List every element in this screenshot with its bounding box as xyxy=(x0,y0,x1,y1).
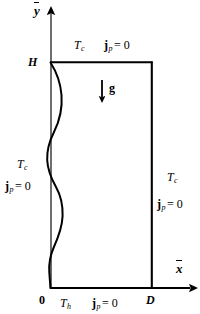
bottom-flux-label: jp= 0 xyxy=(92,294,118,311)
diagram-canvas xyxy=(0,0,200,314)
y-axis-label-text: y xyxy=(34,4,40,17)
bottom-temperature-label: Th xyxy=(60,294,71,311)
right-temperature-label: Tc xyxy=(167,168,178,185)
bottom-temperature-symbol: T xyxy=(60,296,67,310)
right-flux-label: jp= 0 xyxy=(157,195,183,212)
top-temperature-symbol: T xyxy=(74,38,81,52)
point-label-d: D xyxy=(146,294,155,306)
x-axis-label-text: x xyxy=(176,262,183,275)
top-temperature-label: Tc xyxy=(74,36,85,53)
wavy-left-boundary xyxy=(47,63,62,289)
gravity-label: g xyxy=(109,82,115,94)
right-flux-value: = 0 xyxy=(165,197,182,211)
x-axis-label: x xyxy=(176,262,183,275)
left-temperature-symbol: T xyxy=(17,157,24,171)
bottom-flux-value: = 0 xyxy=(100,296,117,310)
top-temperature-subscript: c xyxy=(81,44,85,53)
point-label-h: H xyxy=(28,56,37,68)
left-flux-value: = 0 xyxy=(13,179,30,193)
bottom-temperature-subscript: h xyxy=(67,302,71,311)
top-flux-value: = 0 xyxy=(112,38,129,52)
right-temperature-subscript: c xyxy=(174,176,178,185)
y-axis-label: y xyxy=(34,4,40,17)
point-label-origin: 0 xyxy=(39,294,45,306)
left-temperature-label: Tc xyxy=(17,155,28,172)
left-flux-label: jp= 0 xyxy=(5,177,31,194)
left-temperature-subscript: c xyxy=(24,163,28,172)
right-temperature-symbol: T xyxy=(167,170,174,184)
figure-container: y x H 0 D g Tc jp= 0 Tc jp= 0 Tc jp= 0 T… xyxy=(0,0,200,314)
top-flux-label: jp= 0 xyxy=(104,36,130,53)
